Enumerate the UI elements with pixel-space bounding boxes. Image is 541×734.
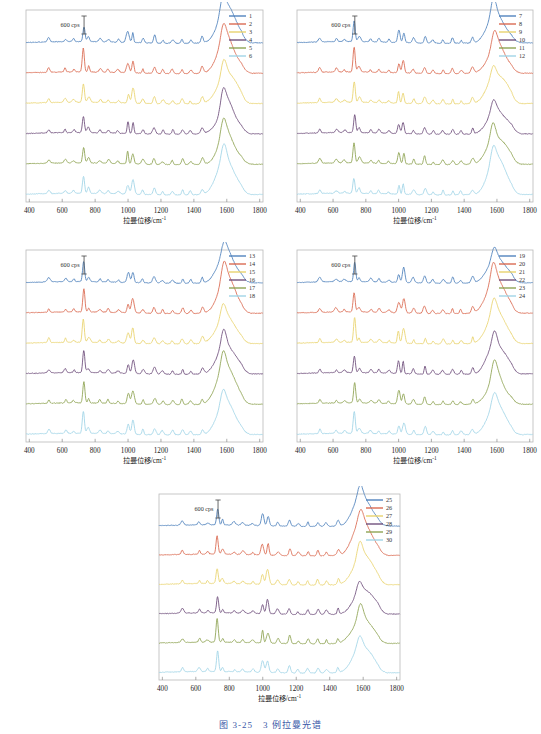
x-axis-tick-label: 1200: [424, 207, 439, 215]
x-axis-tick-label: 1400: [457, 447, 472, 455]
x-axis-tick-label: 1200: [154, 207, 169, 215]
x-axis-label: 拉曼位移/cm-1: [123, 455, 167, 465]
x-axis-tick-label: 600: [190, 685, 201, 693]
plot-frame: [297, 250, 533, 442]
spectra-panel-1: 40060080010001200140016001800拉曼位移/cm-160…: [0, 2, 271, 240]
x-axis-tick-label: 800: [360, 447, 371, 455]
legend-label: 21: [519, 268, 525, 275]
x-axis-tick-label: 400: [24, 207, 35, 215]
spectra-panel-4: 40060080010001200140016001800拉曼位移/cm-160…: [271, 242, 541, 480]
x-axis-tick-label: 600: [328, 207, 339, 215]
legend-label: 12: [519, 52, 525, 59]
x-axis-tick-label: 600: [57, 207, 68, 215]
x-axis-tick-label: 1600: [220, 447, 235, 455]
legend-label: 24: [519, 292, 525, 299]
legend-label: 7: [519, 12, 522, 19]
x-axis-tick-label: 800: [224, 685, 235, 693]
x-axis-label: 拉曼位移/cm-1: [258, 693, 302, 703]
legend-label: 3: [249, 28, 252, 35]
scale-bar-label: 600 cps: [60, 21, 80, 28]
legend-label: 22: [519, 276, 525, 283]
legend-label: 17: [249, 284, 255, 291]
x-axis-tick-label: 1800: [253, 207, 268, 215]
x-axis-tick-label: 800: [90, 207, 101, 215]
x-axis-tick-label: 1400: [187, 207, 202, 215]
x-axis-label: 拉曼位移/cm-1: [393, 455, 437, 465]
legend-label: 13: [249, 252, 255, 259]
legend-label: 19: [519, 252, 525, 259]
scale-bar-label: 600 cps: [331, 21, 351, 28]
legend-label: 26: [386, 504, 392, 511]
x-axis-tick-label: 1000: [391, 447, 406, 455]
x-axis-tick-label: 1400: [323, 685, 338, 693]
plot-frame: [26, 10, 263, 202]
x-axis-tick-label: 400: [295, 447, 306, 455]
spectra-panel-5: 40060080010001200140016001800拉曼位移/cm-160…: [133, 486, 408, 718]
x-axis-tick-label: 400: [157, 685, 168, 693]
x-axis-tick-label: 600: [57, 447, 68, 455]
legend-label: 8: [519, 20, 522, 27]
x-axis-tick-label: 1400: [187, 447, 202, 455]
legend-label: 14: [249, 260, 255, 267]
x-axis-tick-label: 1400: [457, 207, 472, 215]
legend-label: 16: [249, 276, 255, 283]
x-axis-tick-label: 1800: [523, 447, 538, 455]
x-axis-label: 拉曼位移/cm-1: [393, 215, 437, 225]
legend-label: 18: [249, 292, 255, 299]
legend-label: 4: [249, 36, 252, 43]
scale-bar-label: 600 cps: [194, 505, 214, 512]
x-axis-tick-label: 1800: [389, 685, 404, 693]
plot-frame: [159, 494, 400, 680]
x-axis-tick-label: 1800: [253, 447, 268, 455]
legend-label: 10: [519, 36, 525, 43]
legend-label: 20: [519, 260, 525, 267]
legend-label: 5: [249, 44, 252, 51]
legend-label: 2: [249, 20, 252, 27]
figure-caption: 图 3-25 3 例拉曼光谱: [0, 718, 541, 731]
x-axis-tick-label: 1000: [121, 207, 136, 215]
x-axis-tick-label: 1000: [256, 685, 271, 693]
x-axis-tick-label: 400: [295, 207, 306, 215]
spectra-panel-2: 40060080010001200140016001800拉曼位移/cm-160…: [271, 2, 541, 240]
x-axis-tick-label: 800: [90, 447, 101, 455]
scale-bar-label: 600 cps: [60, 261, 80, 268]
x-axis-tick-label: 400: [24, 447, 35, 455]
x-axis-tick-label: 1600: [356, 685, 371, 693]
scale-bar-label: 600 cps: [331, 261, 351, 268]
x-axis-tick-label: 1000: [121, 447, 136, 455]
legend-label: 11: [519, 44, 525, 51]
plot-frame: [26, 250, 263, 442]
x-axis-tick-label: 1200: [424, 447, 439, 455]
legend-label: 23: [519, 284, 525, 291]
x-axis-label: 拉曼位移/cm-1: [123, 215, 167, 225]
x-axis-tick-label: 1600: [490, 447, 505, 455]
legend-label: 6: [249, 52, 252, 59]
x-axis-tick-label: 1800: [523, 207, 538, 215]
legend-label: 30: [386, 536, 392, 543]
legend-label: 1: [249, 12, 252, 19]
x-axis-tick-label: 1200: [289, 685, 304, 693]
x-axis-tick-label: 1600: [490, 207, 505, 215]
x-axis-tick-label: 1600: [220, 207, 235, 215]
legend-label: 27: [386, 512, 392, 519]
legend-label: 29: [386, 528, 392, 535]
x-axis-tick-label: 600: [328, 447, 339, 455]
legend-label: 15: [249, 268, 255, 275]
x-axis-tick-label: 1000: [391, 207, 406, 215]
legend-label: 28: [386, 520, 392, 527]
spectra-panel-3: 40060080010001200140016001800拉曼位移/cm-160…: [0, 242, 271, 480]
x-axis-tick-label: 1200: [154, 447, 169, 455]
legend-label: 25: [386, 496, 392, 503]
legend-label: 9: [519, 28, 522, 35]
x-axis-tick-label: 800: [360, 207, 371, 215]
